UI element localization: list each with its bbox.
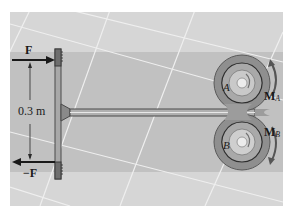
moment-b-symbol: M — [264, 125, 275, 139]
force-label-bottom: −F — [23, 167, 37, 179]
moment-b-subscript: B — [275, 130, 280, 139]
moment-a-subscript: A — [275, 94, 280, 103]
grip-top — [55, 49, 61, 66]
point-label-b: B — [223, 140, 230, 151]
moment-a-symbol: M — [264, 89, 275, 103]
grip-bottom — [55, 162, 61, 179]
figure-canvas — [10, 12, 283, 206]
dimension-label: 0.3 m — [18, 105, 45, 117]
moment-label-b: MB — [264, 126, 280, 139]
point-label-a: A — [223, 82, 230, 93]
shaft — [70, 109, 255, 116]
engineering-figure: F −F 0.3 m A B MA MB — [10, 12, 283, 206]
force-label-top: F — [25, 44, 32, 56]
moment-label-a: MA — [264, 90, 280, 103]
